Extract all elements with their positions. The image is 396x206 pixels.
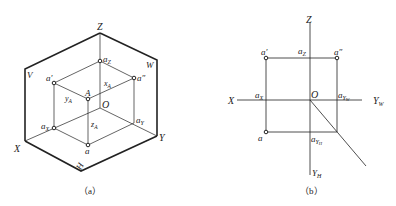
label-az-b: aZ	[298, 46, 307, 57]
label-a-prime-b: a′	[261, 47, 269, 57]
label-zA: zA	[90, 120, 98, 130]
figure-a: Z V W H X Y O aZ a′ a″ A xA yA zA aX aY …	[13, 21, 166, 196]
label-o-b: O	[311, 89, 318, 100]
label-y: Y	[159, 132, 166, 143]
h-plane-outline	[25, 136, 157, 171]
label-ax: aX	[41, 121, 50, 132]
label-a-double-prime: a″	[137, 73, 146, 83]
point-a-prime	[52, 81, 56, 85]
point-a-double-prime	[132, 76, 136, 80]
label-o: O	[102, 99, 109, 110]
label-ayh: aYH	[311, 134, 323, 146]
label-z-b: Z	[306, 14, 312, 25]
label-A: A	[84, 88, 91, 98]
point-a-b	[264, 130, 268, 134]
line-a-prime-A	[54, 83, 88, 99]
label-xA: xA	[103, 79, 112, 89]
label-z: Z	[97, 21, 103, 32]
label-a: a	[85, 146, 90, 156]
line-az-a-prime	[54, 61, 100, 83]
label-w-plane: W	[146, 60, 155, 70]
label-ax-b: aX	[255, 90, 264, 101]
caption-a: （a）	[79, 186, 101, 196]
diagonal-45	[310, 100, 366, 166]
y-axis	[100, 108, 157, 136]
figure-b: Z X O YW YH a′ aZ a″ aX aYW a aYH （b）	[227, 14, 385, 196]
label-yh: YH	[312, 168, 322, 179]
x-axis	[25, 108, 100, 141]
label-a-prime: a′	[46, 73, 54, 83]
label-h-plane: H	[74, 161, 87, 173]
caption-b: （b）	[300, 186, 323, 196]
label-x-b: X	[227, 95, 235, 106]
label-v-plane: V	[27, 70, 34, 80]
line-ax-a	[54, 128, 88, 145]
label-a-double-prime-b: a″	[334, 47, 343, 57]
point-ax	[52, 126, 56, 130]
point-az	[98, 59, 102, 63]
label-az: aZ	[103, 54, 112, 65]
line-A-a-double-prime	[88, 78, 134, 99]
label-a-b: a	[258, 133, 263, 143]
label-ay: aY	[136, 115, 145, 126]
label-yw: YW	[373, 95, 385, 107]
label-yA: yA	[64, 94, 73, 104]
projection-diagram: Z V W H X Y O aZ a′ a″ A xA yA zA aX aY …	[0, 0, 396, 206]
label-x: X	[13, 143, 21, 154]
